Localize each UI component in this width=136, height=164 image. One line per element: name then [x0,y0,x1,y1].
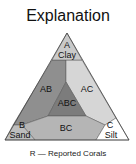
label-c-code: C [107,120,114,130]
label-a-name: Clay [58,50,77,60]
label-b-code: B [19,120,25,130]
legend-caption: R — Reported Corals [0,149,136,158]
label-c-name: Silt [105,130,118,140]
label-ab: AB [40,84,52,94]
label-b-name: Sand [9,130,30,140]
label-abc: ABC [58,98,77,108]
ternary-diagram: A Clay AB AC ABC BC B Sand C Silt [0,0,136,164]
label-a-code: A [64,40,70,50]
label-ac: AC [81,84,94,94]
label-bc: BC [60,123,73,133]
